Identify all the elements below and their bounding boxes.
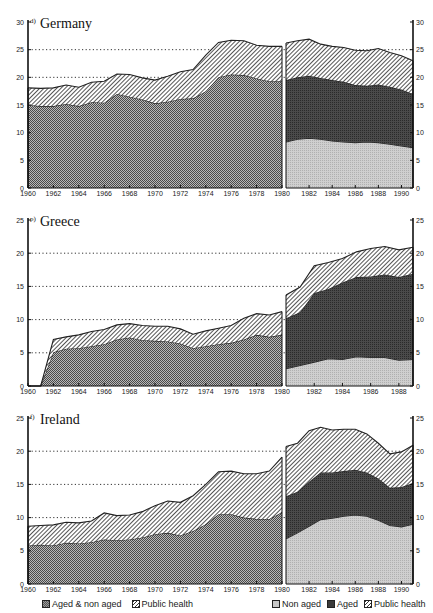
y-tick-label-left: 5 xyxy=(20,547,24,554)
x-tick-label: 1990 xyxy=(394,190,410,197)
x-tick-label: 1986 xyxy=(363,388,379,395)
x-tick-label: 1980 xyxy=(274,388,290,395)
y-tick-label-right: 15 xyxy=(416,283,424,290)
y-tick-label-right: 20 xyxy=(416,74,424,81)
x-tick-label: 1964 xyxy=(71,388,87,395)
x-tick-label: 1976 xyxy=(223,190,239,197)
y-tick-label-left: 0 xyxy=(20,383,24,390)
y-tick-label-right: 25 xyxy=(416,217,424,224)
x-tick-label: 1982 xyxy=(301,586,317,593)
y-tick-label-right: 30 xyxy=(416,19,424,26)
y-tick-label-left: 0 xyxy=(20,581,24,588)
y-tick-label-right: 5 xyxy=(416,349,420,356)
x-tick-label: 1962 xyxy=(46,388,62,395)
area-non-aged xyxy=(286,138,413,188)
y-tick-label-right: 25 xyxy=(416,46,424,53)
x-tick-label: 1968 xyxy=(122,586,138,593)
x-tick-label: 1974 xyxy=(198,388,214,395)
legend-item-public-health-right: Public health xyxy=(364,599,426,609)
legend-item-aged-non-aged: Aged & non aged xyxy=(42,599,122,609)
x-tick-label: 1966 xyxy=(96,586,112,593)
chart-title: Ireland xyxy=(40,412,80,427)
x-tick-label: 1986 xyxy=(347,586,363,593)
y-tick-label-right: 15 xyxy=(416,481,424,488)
swatch-diagonal-hatch-icon xyxy=(132,600,140,608)
y-tick-label-right: 5 xyxy=(416,547,420,554)
x-tick-label: 1974 xyxy=(198,586,214,593)
x-tick-label: 1962 xyxy=(46,190,62,197)
x-tick-label: 1968 xyxy=(122,388,138,395)
legend-item-non-aged: Non aged xyxy=(272,599,321,609)
legend-item-public-health: Public health xyxy=(132,599,194,609)
chart-greece: 1960196219641966196819701972197419761978… xyxy=(16,214,424,395)
x-tick-label: 1972 xyxy=(173,190,189,197)
legend-label: Aged xyxy=(337,599,358,609)
chart-germany: 1960196219641966196819701972197419761978… xyxy=(16,16,424,197)
x-tick-label: 1974 xyxy=(198,190,214,197)
x-tick-label: 1968 xyxy=(122,190,138,197)
x-tick-label: 1984 xyxy=(324,586,340,593)
x-tick-label: 1990 xyxy=(394,586,410,593)
legend-label: Public health xyxy=(374,599,426,609)
x-tick-label: 1962 xyxy=(46,586,62,593)
y-tick-label-left: 25 xyxy=(16,415,24,422)
footnote-marker: f) xyxy=(30,413,35,421)
y-tick-label-left: 25 xyxy=(16,46,24,53)
legend-right: Non aged Aged Public health xyxy=(272,599,426,609)
y-tick-label-right: 0 xyxy=(416,581,420,588)
x-tick-label: 1982 xyxy=(306,388,322,395)
y-tick-label-left: 25 xyxy=(16,217,24,224)
x-tick-label: 1970 xyxy=(147,190,163,197)
x-tick-label: 1970 xyxy=(147,388,163,395)
y-tick-label-left: 15 xyxy=(16,283,24,290)
x-tick-label: 1980 xyxy=(274,190,290,197)
y-tick-label-right: 20 xyxy=(416,250,424,257)
y-tick-label-left: 5 xyxy=(20,349,24,356)
y-tick-label-right: 0 xyxy=(416,185,420,192)
stacked-area-figure: 1960196219641966196819701972197419761978… xyxy=(0,0,433,613)
swatch-light-gray-icon xyxy=(272,600,280,608)
y-tick-label-right: 25 xyxy=(416,415,424,422)
x-tick-label: 1988 xyxy=(371,190,387,197)
x-tick-label: 1984 xyxy=(324,190,340,197)
y-tick-label-left: 10 xyxy=(16,129,24,136)
y-tick-label-right: 20 xyxy=(416,448,424,455)
y-tick-label-right: 15 xyxy=(416,102,424,109)
legend-left: Aged & non aged Public health xyxy=(42,599,193,609)
y-tick-label-left: 10 xyxy=(16,316,24,323)
chart-ireland: 1960196219641966196819701972197419761978… xyxy=(16,412,424,593)
y-tick-label-right: 10 xyxy=(416,129,424,136)
x-tick-label: 1986 xyxy=(347,190,363,197)
legend-label: Non aged xyxy=(282,599,321,609)
swatch-dark-gray-icon xyxy=(327,600,335,608)
x-tick-label: 1970 xyxy=(147,586,163,593)
x-tick-label: 1976 xyxy=(223,586,239,593)
y-tick-label-left: 20 xyxy=(16,448,24,455)
y-tick-label-right: 10 xyxy=(416,514,424,521)
y-tick-label-left: 10 xyxy=(16,514,24,521)
x-tick-label: 1966 xyxy=(96,190,112,197)
x-tick-label: 1978 xyxy=(249,586,265,593)
x-tick-label: 1976 xyxy=(223,388,239,395)
y-tick-label-right: 0 xyxy=(416,383,420,390)
legend-item-aged: Aged xyxy=(327,599,358,609)
x-tick-label: 1964 xyxy=(71,190,87,197)
chart-title: Greece xyxy=(40,214,80,229)
x-tick-label: 1964 xyxy=(71,586,87,593)
footnote-marker: p) xyxy=(30,215,37,223)
y-tick-label-left: 15 xyxy=(16,102,24,109)
y-tick-label-left: 0 xyxy=(20,185,24,192)
legend-label: Aged & non aged xyxy=(52,599,122,609)
x-tick-label: 1978 xyxy=(249,388,265,395)
y-tick-label-left: 20 xyxy=(16,250,24,257)
x-tick-label: 1988 xyxy=(391,388,407,395)
legend-label: Public health xyxy=(142,599,194,609)
x-tick-label: 1980 xyxy=(274,586,290,593)
footnote-marker: d) xyxy=(30,17,37,25)
y-tick-label-left: 20 xyxy=(16,74,24,81)
swatch-crosshatch-icon xyxy=(42,600,50,608)
x-tick-label: 1978 xyxy=(249,190,265,197)
x-tick-label: 1984 xyxy=(335,388,351,395)
y-tick-label-left: 15 xyxy=(16,481,24,488)
y-tick-label-right: 10 xyxy=(416,316,424,323)
